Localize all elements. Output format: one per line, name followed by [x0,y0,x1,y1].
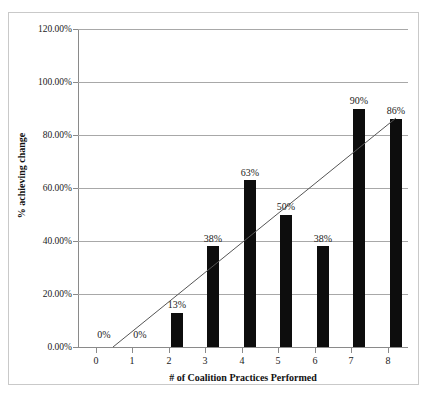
x-tick-label: 2 [154,355,184,367]
chart-container: 120.00% 100.00% 80.00% 60.00% 40.00% 20.… [0,0,431,400]
bar-7 [353,109,365,348]
bar-value-label-3: 38% [193,233,233,244]
bar-5 [280,215,292,348]
x-tick-label: 8 [373,355,403,367]
y-tick-label: 20.00% [10,289,72,299]
x-tick-label: 5 [263,355,293,367]
gridline [78,82,408,83]
y-axis-title: % achieving change [16,111,27,241]
bar-4 [244,180,256,347]
bar-value-label-8: 86% [376,105,416,116]
bar-value-label-1: 0% [120,329,160,340]
bar-value-label-7: 90% [339,95,379,106]
bar-value-label-2: 13% [157,299,197,310]
gridline [78,29,408,30]
y-tick-label: 0.00% [10,342,72,352]
bar-2 [171,313,183,348]
x-tick-label: 6 [300,355,330,367]
bar-6 [317,246,329,347]
bar-value-label-5: 50% [266,201,306,212]
x-axis-line [78,347,408,348]
x-axis-title: # of Coalition Practices Performed [78,372,408,383]
x-tick-label: 3 [190,355,220,367]
x-tick-label: 1 [117,355,147,367]
y-tick-label: 120.00% [10,24,72,34]
bar-8 [390,119,402,347]
x-tick-label: 4 [227,355,257,367]
y-tick-label: 100.00% [10,77,72,87]
bar-3 [207,246,219,347]
bar-value-label-4: 63% [230,167,270,178]
x-tick-label: 0 [81,355,111,367]
bar-value-label-6: 38% [303,233,343,244]
plot-area: 0% 0% 13% 38% 63% 50% 38% 90% 86% [78,29,408,347]
bar-value-label-0: 0% [84,329,124,340]
x-tick-label: 7 [336,355,366,367]
